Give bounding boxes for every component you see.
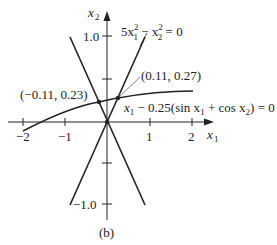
- intersection-point-1: [97, 100, 101, 104]
- x-tick-label-neg1: −1: [58, 129, 72, 144]
- x-tick-label-1: 1: [146, 129, 153, 144]
- svg-text:2: 2: [95, 12, 100, 22]
- lines-equation-label: 5x21 − x22 = 0: [121, 22, 183, 42]
- svg-text:x: x: [87, 5, 94, 20]
- y-axis-label: x 2: [87, 5, 100, 22]
- x-tick-label-2: 2: [188, 129, 195, 144]
- svg-text:1: 1: [214, 134, 219, 144]
- diagram-canvas: −2 −1 1 2 x 1 1.0 −1.0 x 2 (−0.11, 0.23)…: [0, 0, 277, 245]
- svg-text:x: x: [206, 127, 213, 142]
- figure-caption: (b): [99, 225, 114, 240]
- y-tick-label-neg1: −1.0: [73, 197, 97, 212]
- curve-equation-label: x1 − 0.25(sin x1 + cos x2) = 0: [123, 100, 275, 117]
- origin-point: [105, 120, 109, 124]
- svg-text:5x21 − x22 = 0: 5x21 − x22 = 0: [121, 22, 183, 42]
- y-tick-label-1: 1.0: [83, 29, 99, 44]
- x-axis-label: x 1: [206, 127, 219, 144]
- intersection-point-2: [116, 96, 120, 100]
- point-label-1: (−0.11, 0.23): [20, 87, 88, 102]
- svg-text:x1 − 0.25(sin x1 + cos x2) = 0: x1 − 0.25(sin x1 + cos x2) = 0: [123, 100, 275, 117]
- x-axis-arrow-icon: [204, 119, 214, 126]
- y-axis-arrow-icon: [104, 11, 111, 21]
- x-axis: [8, 118, 214, 126]
- point-label-2: (0.11, 0.27): [141, 68, 201, 83]
- x-tick-label-neg2: −2: [16, 129, 30, 144]
